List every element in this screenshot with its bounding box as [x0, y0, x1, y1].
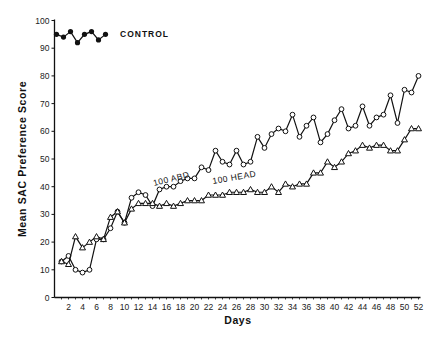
y-tick-label: 70: [40, 99, 50, 109]
control-series-label: CONTROL: [120, 29, 169, 39]
data-point: [73, 234, 79, 239]
x-tick-label: 12: [134, 302, 144, 312]
data-point: [68, 29, 73, 34]
data-point: [241, 162, 246, 167]
x-tick-label: 4: [80, 302, 85, 312]
x-tick-label: 36: [302, 302, 312, 312]
data-point: [325, 132, 330, 137]
y-tick-label: 100: [35, 16, 49, 26]
x-tick-label: 22: [204, 302, 214, 312]
data-point: [388, 93, 393, 98]
data-point: [325, 159, 331, 164]
data-point: [129, 195, 134, 200]
data-point: [360, 104, 365, 109]
data-point: [269, 132, 274, 137]
y-tick-label: 30: [40, 209, 50, 219]
x-tick-label: 38: [316, 302, 326, 312]
x-tick-label: 44: [358, 302, 368, 312]
data-point: [332, 118, 337, 123]
y-tick-label: 10: [40, 265, 50, 275]
data-point: [94, 234, 100, 239]
series-100-head: [59, 126, 422, 267]
data-point: [73, 267, 78, 272]
data-point: [227, 162, 232, 167]
data-point: [61, 35, 66, 40]
data-point: [96, 37, 101, 42]
x-tick-label: 28: [246, 302, 256, 312]
data-point: [171, 184, 176, 189]
data-point: [346, 126, 351, 131]
data-point: [402, 87, 407, 92]
x-tick-label: 2: [66, 302, 71, 312]
y-tick-label: 50: [40, 154, 50, 164]
data-point: [80, 270, 85, 275]
data-point: [157, 187, 162, 192]
line-chart: 0102030405060708090100246810121416182022…: [0, 0, 442, 340]
data-point: [255, 134, 260, 139]
data-point: [206, 168, 211, 173]
data-point: [89, 29, 94, 34]
data-point: [136, 190, 141, 195]
data-point: [87, 267, 92, 272]
data-point: [164, 200, 170, 205]
data-point: [248, 186, 254, 191]
x-tick-label: 34: [288, 302, 298, 312]
data-point: [353, 123, 358, 128]
x-tick-label: 50: [400, 302, 410, 312]
head-series-label: 100 HEAD: [212, 168, 257, 186]
data-point: [262, 146, 267, 151]
x-tick-label: 26: [232, 302, 242, 312]
x-tick-label: 52: [414, 302, 424, 312]
data-point: [248, 159, 253, 164]
x-tick-label: 48: [386, 302, 396, 312]
data-point: [234, 148, 239, 153]
data-point: [297, 134, 302, 139]
y-tick-label: 20: [40, 237, 50, 247]
data-point: [374, 115, 379, 120]
data-point: [199, 165, 204, 170]
x-tick-label: 14: [148, 302, 158, 312]
data-point: [82, 32, 87, 37]
data-point: [318, 140, 323, 145]
y-axis-title: Mean SAC Preference Score: [16, 81, 28, 237]
series-group: [54, 29, 422, 275]
data-point: [304, 123, 309, 128]
data-point: [213, 148, 218, 153]
data-point: [283, 129, 288, 134]
x-tick-label: 24: [218, 302, 228, 312]
y-tick-label: 80: [40, 71, 50, 81]
data-point: [54, 32, 59, 37]
data-point: [290, 112, 295, 117]
data-point: [269, 184, 275, 189]
y-tick-label: 90: [40, 43, 50, 53]
y-tick-label: 60: [40, 126, 50, 136]
data-point: [339, 107, 344, 112]
x-tick-label: 8: [108, 302, 113, 312]
x-tick-label: 30: [260, 302, 270, 312]
data-point: [75, 40, 80, 45]
data-point: [143, 193, 148, 198]
data-point: [311, 115, 316, 120]
data-point: [409, 90, 414, 95]
y-tick-label: 40: [40, 182, 50, 192]
x-tick-label: 40: [330, 302, 340, 312]
data-point: [360, 142, 366, 147]
data-point: [103, 32, 108, 37]
data-point: [416, 74, 421, 79]
x-tick-label: 10: [120, 302, 130, 312]
x-tick-label: 32: [274, 302, 284, 312]
x-tick-label: 16: [162, 302, 172, 312]
series-control: [54, 29, 108, 45]
data-point: [108, 226, 113, 231]
data-point: [283, 181, 289, 186]
x-tick-label: 18: [176, 302, 186, 312]
data-point: [276, 126, 281, 131]
y-tick-label: 0: [45, 293, 50, 303]
x-axis-title: Days: [224, 314, 252, 326]
series-line: [62, 129, 419, 265]
x-tick-label: 20: [190, 302, 200, 312]
x-tick-label: 42: [344, 302, 354, 312]
data-point: [220, 159, 225, 164]
data-point: [381, 112, 386, 117]
x-tick-label: 46: [372, 302, 382, 312]
